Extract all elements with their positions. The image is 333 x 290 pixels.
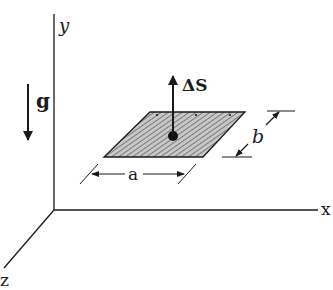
plate-dot-1 (156, 114, 158, 116)
dimension-a-label: a (128, 164, 138, 184)
gravity-label: g (36, 89, 50, 113)
gravity-indicator: g (28, 84, 50, 140)
b-arrow-top-icon (266, 112, 279, 125)
z-axis-label: z (0, 270, 9, 290)
y-axis-label: y (58, 15, 70, 36)
area-element-plate (104, 112, 245, 157)
dimension-b-label: b (252, 125, 264, 147)
dimension-a: a (80, 164, 196, 184)
b-arrow-bottom-icon (236, 144, 248, 156)
normal-vector-label: ΔS (182, 75, 207, 95)
x-axis-label: x (321, 199, 331, 219)
plate-dot-2 (195, 114, 197, 116)
diagram-canvas: y x z g ΔS a b (0, 0, 333, 290)
plate-dot-3 (229, 114, 231, 116)
z-axis (4, 210, 54, 268)
